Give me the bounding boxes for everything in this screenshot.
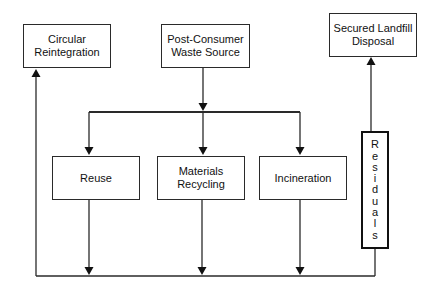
node-label: Reuse bbox=[80, 172, 112, 185]
reuse-node: Reuse bbox=[52, 156, 140, 200]
residuals-letter: e bbox=[372, 151, 378, 162]
node-label: Recycling bbox=[177, 178, 225, 191]
incineration-node: Incineration bbox=[259, 156, 347, 200]
node-label: Waste Source bbox=[167, 46, 243, 59]
arrow-head-icon bbox=[32, 69, 41, 77]
residuals-letter: s bbox=[372, 230, 378, 241]
node-label: Reintegration bbox=[34, 46, 99, 59]
node-label: Secured Landfill bbox=[334, 22, 413, 35]
secured-landfill-disposal-node: Secured Landfill Disposal bbox=[329, 13, 417, 57]
arrow-head-icon bbox=[296, 267, 305, 275]
residuals-node: R e s i d u a l s bbox=[361, 131, 389, 249]
node-label: Incineration bbox=[275, 172, 332, 185]
arrow-head-icon bbox=[85, 267, 94, 275]
materials-recycling-node: Materials Recycling bbox=[157, 156, 245, 200]
node-label: Disposal bbox=[334, 35, 413, 48]
node-label: Post-Consumer bbox=[167, 33, 243, 46]
residuals-letter: l bbox=[374, 218, 376, 229]
node-label: Materials bbox=[177, 165, 225, 178]
residuals-letter: d bbox=[372, 184, 378, 195]
arrow-head-icon bbox=[199, 103, 208, 111]
node-label: Circular bbox=[34, 33, 99, 46]
post-consumer-waste-source-node: Post-Consumer Waste Source bbox=[161, 24, 250, 68]
circular-reintegration-node: Circular Reintegration bbox=[23, 24, 111, 68]
residuals-letter: R bbox=[371, 139, 379, 150]
arrow-head-icon bbox=[367, 57, 376, 65]
arrow-head-icon bbox=[199, 147, 208, 155]
arrow-head-icon bbox=[85, 147, 94, 155]
arrow-head-icon bbox=[198, 267, 207, 275]
arrow-head-icon bbox=[296, 147, 305, 155]
